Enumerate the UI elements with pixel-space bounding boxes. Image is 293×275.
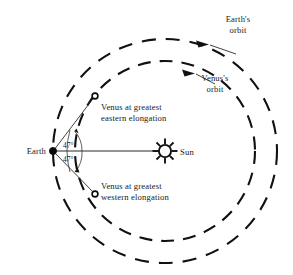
venus-elongation-diagram: Earth's orbit Venus's orbit Venus at gre… bbox=[0, 0, 293, 275]
venus-orbit-label-line1: Venus's bbox=[202, 73, 229, 83]
earth-orbit-label-line1: Earth's bbox=[226, 14, 251, 24]
diagram-canvas: Earth's orbit Venus's orbit Venus at gre… bbox=[0, 0, 293, 275]
venus-orbit-direction-arrow-icon bbox=[182, 70, 195, 77]
venus-east-label-line1: Venus at greatest bbox=[101, 102, 162, 112]
angle-arc-upper-arrow-icon bbox=[75, 129, 79, 134]
venus-east-label-line2: eastern elongation bbox=[101, 113, 167, 123]
venus-orbit-label-line2: orbit bbox=[207, 84, 224, 94]
earth-orbit-label-line2: orbit bbox=[230, 25, 247, 35]
earth-label: Earth bbox=[27, 146, 47, 156]
earth-body-dot bbox=[49, 147, 56, 154]
venus-west-label-line1: Venus at greatest bbox=[101, 181, 162, 191]
sun-glyph-icon bbox=[153, 139, 178, 164]
venus-west-label-line2: western elongation bbox=[101, 192, 169, 202]
venus-east-body-dot bbox=[92, 93, 98, 99]
angle-label-upper: 47° bbox=[63, 141, 74, 150]
sun-label: Sun bbox=[180, 147, 194, 157]
angle-label-lower: 47° bbox=[63, 155, 74, 164]
venus-west-body-dot bbox=[92, 191, 98, 197]
